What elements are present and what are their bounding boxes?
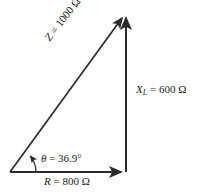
reactance-value: = 600 Ω	[147, 83, 186, 95]
angle-arc	[31, 156, 37, 172]
resistance-value: = 800 Ω	[51, 175, 90, 187]
resistance-label: R = 800 Ω	[44, 176, 90, 187]
reactance-symbol: X	[136, 83, 143, 95]
phase-angle-value: = 36.9°	[46, 152, 81, 164]
resistance-symbol: R	[44, 175, 51, 187]
impedance-triangle-figure: Z = 1000 Ω XL = 600 Ω R = 800 Ω θ = 36.9…	[0, 0, 198, 194]
impedance-triangle-diagram	[0, 0, 198, 194]
reactance-label: XL = 600 Ω	[136, 84, 186, 97]
impedance-vector-line	[10, 18, 122, 172]
phase-angle-label: θ = 36.9°	[41, 153, 82, 164]
